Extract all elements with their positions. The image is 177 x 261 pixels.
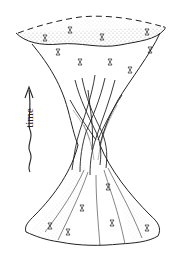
- hourglass-twist-illustration: time: [0, 0, 177, 261]
- upper-left-contour: [32, 44, 78, 145]
- twisted-strands: [70, 75, 122, 175]
- upper-right-contour: [100, 33, 160, 145]
- time-axis-label: time: [23, 103, 35, 133]
